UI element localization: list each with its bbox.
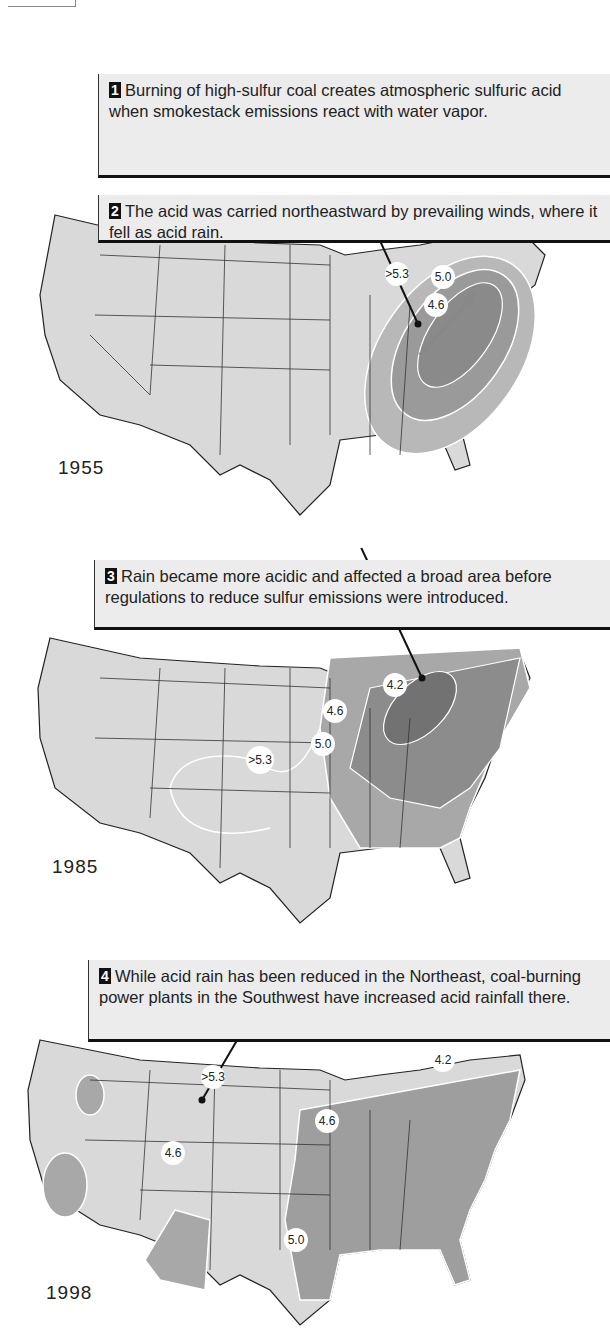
ph-label: >5.3 (201, 1070, 225, 1084)
ph-label: >5.3 (248, 753, 272, 767)
ph-label: 4.6 (327, 704, 344, 718)
year-label: 1955 (58, 457, 104, 479)
ph-label: 4.6 (165, 1146, 182, 1160)
map-panel-1955: >5.3 5.0 4.6 2The acid was carried north… (0, 195, 610, 525)
callout-text: Burning of high-sulfur coal creates atmo… (109, 81, 562, 120)
year-label: 1998 (46, 1282, 92, 1304)
ph-label: >5.3 (385, 267, 409, 281)
callout-step-4: 4While acid rain has been reduced in the… (88, 960, 610, 1042)
map-panel-1998: >5.3 4.2 4.6 4.6 5.0 4While acid rain ha… (0, 960, 610, 1328)
callout-step-3: 3Rain became more acidic and affected a … (94, 560, 610, 630)
step-number-badge: 3 (105, 568, 117, 584)
page-corner-mark (8, 0, 76, 7)
ph-label: 5.0 (288, 1233, 305, 1247)
ph-label: 4.2 (435, 1053, 452, 1067)
ph-label: 4.6 (428, 298, 445, 312)
callout-step-2: 2The acid was carried northeastward by p… (98, 195, 610, 243)
step-number-badge: 1 (109, 82, 121, 98)
step-number-badge: 2 (109, 203, 121, 219)
callout-text: The acid was carried northeastward by pr… (109, 202, 597, 241)
callout-step-1: 1Burning of high-sulfur coal creates atm… (98, 74, 610, 178)
step-number-badge: 4 (99, 968, 111, 984)
ph-label: 4.6 (319, 1114, 336, 1128)
ph-label: 5.0 (435, 270, 452, 284)
callout-text: While acid rain has been reduced in the … (99, 967, 581, 1006)
ph-label: 4.2 (387, 678, 404, 692)
ph-label: 5.0 (315, 737, 332, 751)
callout-text: Rain became more acidic and affected a b… (105, 567, 552, 606)
map-panel-1985: 4.2 4.6 5.0 >5.3 3Rain became more acidi… (0, 548, 610, 928)
year-label: 1985 (52, 856, 98, 878)
